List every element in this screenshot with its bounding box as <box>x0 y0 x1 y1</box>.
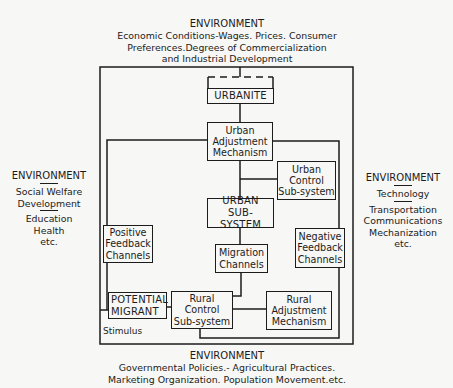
divider <box>394 201 412 202</box>
right-env-item: Transportation <box>355 204 451 215</box>
top-environment: ENVIRONMENT Economic Conditions-Wages. P… <box>96 18 358 65</box>
node-label: Rural <box>190 293 215 304</box>
right-env-item: Technology <box>355 188 451 199</box>
node-potential-migrant: POTENTIAL MIGRANT <box>108 292 167 319</box>
node-rural-control-subsystem: Rural Control Sub-system <box>171 291 233 329</box>
node-label: Urban <box>225 125 254 136</box>
top-env-line-3: and Industrial Development <box>96 53 358 64</box>
node-migration-channels: Migration Channels <box>215 244 268 273</box>
node-label: Sub-system <box>174 316 230 327</box>
node-label: Feedback <box>105 238 151 249</box>
node-urban-control-subsystem: Urban Control Sub-system <box>277 161 336 200</box>
node-positive-feedback-channels: Positive Feedback Channels <box>103 225 153 263</box>
node-label: SUB-SYSTEM <box>208 207 273 231</box>
divider <box>40 183 58 184</box>
bottom-env-line-2: Marketing Organization. Population Movem… <box>96 374 358 385</box>
node-label: Channels <box>219 259 263 270</box>
left-env-item: Development <box>4 198 94 209</box>
right-env-item: etc. <box>355 238 451 249</box>
node-label: Mechanism <box>272 316 327 327</box>
node-urban-adjustment-mechanism: Urban Adjustment Mechanism <box>207 122 273 161</box>
node-label: Mechanism <box>213 147 268 158</box>
left-env-item: etc. <box>4 236 94 247</box>
node-label: Feedback <box>297 242 343 253</box>
top-env-title: ENVIRONMENT <box>96 18 358 30</box>
right-env-item: Communications <box>355 215 451 226</box>
bottom-environment: ENVIRONMENT Governmental Policies.- Agri… <box>96 350 358 385</box>
node-label: URBAN <box>222 195 258 207</box>
node-label: Negative <box>298 231 341 242</box>
bottom-env-title: ENVIRONMENT <box>96 350 358 362</box>
node-label: Rural <box>287 294 312 305</box>
node-label: Channels <box>298 254 342 265</box>
top-env-line-2: Preferences.Degrees of Commercialization <box>96 42 358 53</box>
node-label: MIGRANT <box>111 306 159 318</box>
right-environment: ENVIRONMENT Technology Transportation Co… <box>355 172 451 250</box>
left-environment: ENVIRONMENT Social Welfare Development E… <box>4 170 94 248</box>
node-urban-subsystem: URBAN SUB-SYSTEM <box>207 198 274 228</box>
left-env-item: Health <box>4 225 94 236</box>
node-label: URBANITE <box>214 90 266 102</box>
node-label: Control <box>289 175 324 186</box>
node-label: Adjustment <box>212 136 267 147</box>
node-label: Control <box>185 304 220 315</box>
left-env-title: ENVIRONMENT <box>4 170 94 182</box>
left-env-item: Education <box>4 213 94 224</box>
node-label: Urban <box>292 164 321 175</box>
bottom-env-line-1: Governmental Policies.- Agricultural Pra… <box>96 362 358 373</box>
node-negative-feedback-channels: Negative Feedback Channels <box>295 228 345 268</box>
left-env-item: Social Welfare <box>4 186 94 197</box>
node-label: POTENTIAL <box>111 294 168 306</box>
node-label: Adjustment <box>271 305 326 316</box>
right-env-item: Mechanization <box>355 227 451 238</box>
stimulus-label: Stimulus <box>103 326 142 337</box>
divider <box>394 185 412 186</box>
top-env-line-1: Economic Conditions-Wages. Prices. Consu… <box>96 30 358 41</box>
node-label: Positive <box>110 227 147 238</box>
node-label: Migration <box>219 247 264 258</box>
node-label: Channels <box>106 250 150 261</box>
node-rural-adjustment-mechanism: Rural Adjustment Mechanism <box>266 291 332 330</box>
node-urbanite: URBANITE <box>207 88 274 104</box>
right-env-title: ENVIRONMENT <box>355 172 451 184</box>
node-label: Sub-system <box>278 186 334 197</box>
divider <box>40 210 58 211</box>
